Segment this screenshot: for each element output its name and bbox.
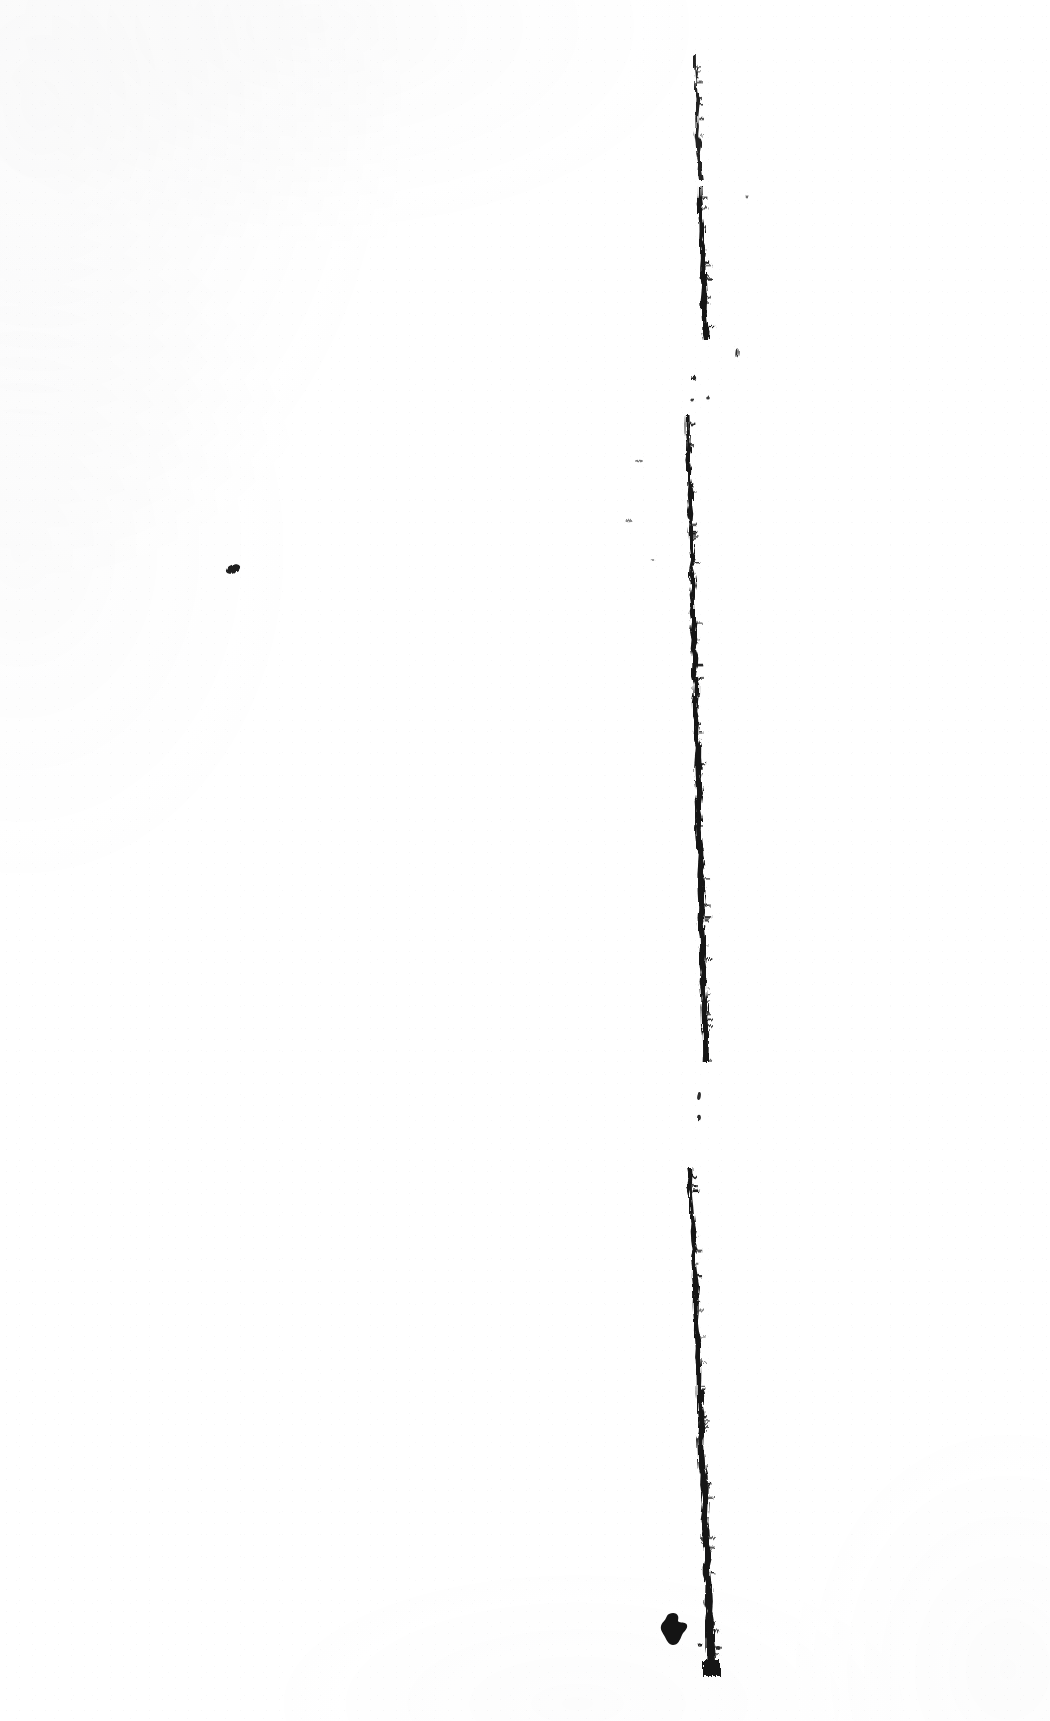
paper-background — [0, 0, 1050, 1721]
scanned-page: Bitonal scan of an otherwise blank page.… — [0, 0, 1050, 1721]
